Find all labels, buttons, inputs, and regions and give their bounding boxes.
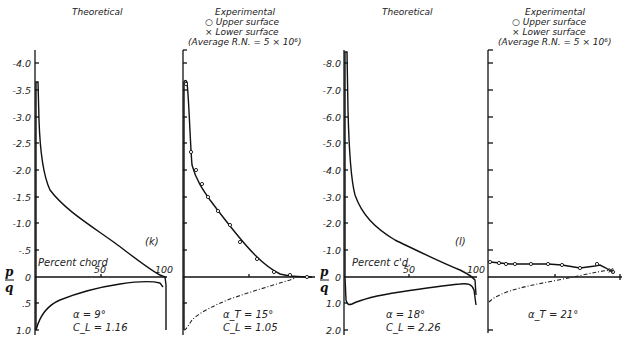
panel-header: Experimental	[525, 7, 586, 17]
panel-theoretical-k: Theoretical -4.0 -3.5 -3.0 -2.5 -2.0 -1.…	[5, 7, 173, 336]
lower-surface-marker: ×	[607, 265, 615, 275]
panel-experimental-k: Experimental ○ Upper surface × Lower sur…	[183, 7, 329, 335]
svg-text:-1.5: -1.5	[12, 192, 31, 203]
svg-text:2.0: 2.0	[326, 325, 341, 336]
legend-lower-surface: × Lower surface	[512, 27, 586, 37]
panel-header: Theoretical	[382, 7, 433, 17]
panel-theoretical-l: Theoretical -8.0 -7.0 -6.0 -5.0 -4.0 -3.…	[322, 7, 485, 336]
svg-text:-7.0: -7.0	[322, 85, 341, 96]
lower-surface-curve	[345, 277, 476, 305]
alpha-label: α = 9°	[73, 309, 106, 320]
y-ticks	[183, 50, 249, 303]
p-over-q-denominator: q	[5, 281, 13, 295]
x-tick-50: 50	[94, 264, 106, 275]
upper-surface-curve	[490, 262, 612, 272]
svg-text:-5.0: -5.0	[322, 138, 341, 149]
legend-reynolds-number: (Average R.N. = 5 × 10⁶)	[498, 37, 611, 47]
upper-surface-curve	[36, 82, 166, 330]
svg-text:1.0: 1.0	[16, 325, 31, 336]
panel-tag: (l)	[455, 236, 466, 247]
panel-header: Theoretical	[72, 7, 123, 17]
alpha-label: α_T = 21°	[528, 309, 578, 321]
svg-text:-2.0: -2.0	[322, 218, 341, 229]
svg-text:-1.0: -1.0	[322, 245, 341, 256]
legend-upper-surface: ○ Upper surface	[512, 17, 587, 27]
svg-text:-6.0: -6.0	[322, 112, 341, 123]
svg-text:-3.0: -3.0	[12, 112, 31, 123]
cl-label: C_L = 1.05	[223, 322, 278, 334]
y-ticks	[344, 63, 409, 330]
upper-surface-points	[184, 82, 308, 278]
lower-surface-curve	[489, 270, 615, 302]
pressure-distribution-figure: Theoretical -4.0 -3.5 -3.0 -2.5 -2.0 -1.…	[0, 0, 626, 339]
legend-lower-surface: × Lower surface	[205, 27, 279, 37]
y-ticks	[488, 50, 620, 330]
svg-text:-3.5: -3.5	[12, 85, 31, 96]
svg-text:-2.0: -2.0	[12, 165, 31, 176]
svg-text:.5: .5	[22, 298, 31, 309]
y-tick-labels: -4.0 -3.5 -3.0 -2.5 -2.0 -1.5 -1.0 -.5 0…	[12, 58, 31, 336]
svg-text:-4.0: -4.0	[12, 58, 31, 69]
svg-text:-.5: -.5	[19, 245, 32, 256]
svg-text:-3.0: -3.0	[322, 192, 341, 203]
legend-upper-surface: ○ Upper surface	[205, 17, 280, 27]
panel-header: Experimental	[215, 7, 276, 17]
svg-text:-1.0: -1.0	[12, 218, 31, 229]
panel-experimental-l: Experimental ○ Upper surface × Lower sur…	[488, 7, 622, 333]
svg-text:-2.5: -2.5	[12, 138, 31, 149]
legend-reynolds-number: (Average R.N. = 5 × 10⁶)	[188, 37, 301, 47]
svg-text:-8.0: -8.0	[322, 58, 341, 69]
alpha-label: α_T = 15°	[223, 309, 273, 321]
x-tick-50: 50	[403, 264, 415, 275]
p-over-q-numerator: p	[5, 265, 14, 279]
svg-text:-4.0: -4.0	[322, 165, 341, 176]
cl-label: C_L = 1.16	[73, 322, 128, 334]
alpha-label: α = 18°	[386, 309, 425, 320]
svg-text:0: 0	[25, 272, 31, 283]
x-tick-100: 100	[467, 264, 485, 275]
upper-surface-points	[488, 260, 614, 273]
panel-tag: (k)	[145, 236, 159, 247]
svg-text:0: 0	[335, 272, 341, 283]
cl-label: C_L = 2.26	[386, 322, 441, 334]
p-over-q-denominator: q	[320, 281, 328, 295]
svg-text:1.0: 1.0	[326, 298, 341, 309]
p-over-q-numerator: p	[320, 265, 329, 279]
